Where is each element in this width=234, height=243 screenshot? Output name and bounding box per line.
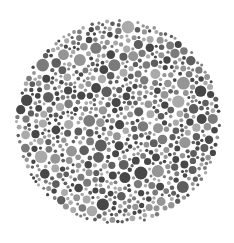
plate-dot [55, 78, 58, 81]
plate-dot [198, 101, 201, 104]
plate-dot [153, 177, 156, 180]
plate-dot [40, 111, 47, 118]
plate-dot [200, 139, 203, 142]
plate-dot [131, 96, 135, 100]
plate-dot [31, 146, 37, 152]
plate-dot [114, 35, 118, 39]
plate-dot [83, 213, 86, 216]
plate-dot [149, 150, 154, 155]
plate-dot [136, 119, 140, 123]
plate-dot [93, 32, 96, 35]
plate-dot [93, 163, 97, 167]
plate-dot [121, 62, 124, 65]
plate-dot [34, 101, 38, 105]
plate-dot [48, 161, 51, 164]
plate-dot [25, 158, 29, 162]
plate-dot [59, 75, 62, 78]
plate-dot [70, 207, 76, 213]
plate-dot [190, 150, 197, 157]
plate-dot [107, 50, 116, 59]
plate-dot [100, 41, 103, 44]
plate-dot [15, 120, 18, 123]
plate-dot [144, 70, 147, 73]
plate-dot [90, 107, 93, 110]
plate-dot [46, 49, 50, 53]
plate-dot [112, 108, 117, 113]
plate-dot [101, 87, 111, 97]
plate-dot [97, 22, 100, 25]
plate-dot [204, 71, 207, 74]
plate-dot [146, 191, 150, 195]
plate-dot [73, 194, 80, 201]
plate-dot [203, 134, 206, 137]
plate-dot [86, 32, 90, 36]
plate-dot [117, 23, 121, 27]
plate-dot [151, 201, 155, 205]
plate-dot [70, 116, 74, 120]
plate-dot [105, 40, 110, 45]
plate-dot [137, 91, 142, 96]
plate-dot [152, 162, 155, 165]
plate-dot [131, 47, 134, 50]
plate-dot [155, 51, 158, 54]
plate-dot [136, 152, 139, 155]
plate-dot [128, 144, 133, 149]
plate-dot [107, 185, 110, 188]
plate-dot [66, 95, 69, 98]
plate-dot [21, 91, 24, 94]
plate-dot [83, 127, 87, 131]
plate-dot [119, 160, 129, 170]
plate-dot [130, 121, 134, 125]
plate-dot [118, 19, 121, 22]
plate-dot [130, 215, 136, 221]
plate-dot [77, 174, 84, 181]
plate-dot [83, 195, 91, 203]
plate-dot [201, 153, 205, 157]
plate-dot [95, 184, 98, 187]
plate-dot [163, 160, 167, 164]
plate-dot [184, 113, 189, 118]
plate-dot [173, 152, 176, 155]
plate-dot [107, 142, 110, 145]
plate-dot [18, 140, 22, 144]
plate-dot [80, 43, 88, 51]
plate-dot [210, 146, 213, 149]
plate-dot [127, 199, 131, 203]
plate-dot [60, 132, 63, 135]
plate-dot [81, 26, 85, 30]
plate-dot [176, 194, 180, 198]
plate-dot [88, 72, 91, 75]
plate-dot [128, 51, 138, 61]
plate-dot [161, 101, 168, 108]
plate-dot [206, 107, 209, 110]
plate-dot [49, 54, 53, 58]
plate-dot [152, 80, 158, 86]
plate-dot [129, 81, 132, 84]
plate-dot [180, 124, 184, 128]
plate-dot [31, 160, 35, 164]
plate-dot [210, 80, 213, 83]
plate-dot [77, 30, 82, 35]
plate-dot [156, 183, 164, 191]
plate-dot [123, 128, 129, 134]
plate-dot [119, 106, 124, 111]
plate-dot [87, 93, 93, 99]
plate-dot [114, 213, 118, 217]
plate-dot [137, 36, 140, 39]
plate-dot [51, 58, 61, 68]
plate-dot [133, 147, 136, 150]
plate-dot [102, 45, 106, 49]
plate-dot [215, 136, 219, 140]
plate-dot [90, 23, 94, 27]
plate-dot [150, 175, 153, 178]
plate-dot [174, 171, 179, 176]
plate-dot [77, 42, 80, 45]
plate-dot [187, 96, 190, 99]
plate-dot [164, 32, 168, 36]
plate-dot [74, 113, 77, 116]
plate-dot [32, 71, 36, 75]
plate-dot [61, 189, 68, 196]
plate-dot [183, 90, 189, 96]
plate-dot [30, 173, 33, 176]
plate-dot [56, 103, 64, 111]
